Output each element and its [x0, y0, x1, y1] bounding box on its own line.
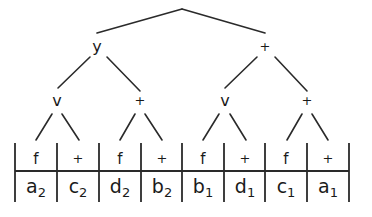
- cell-6-bottom: c1: [277, 175, 296, 200]
- edge-y-plus: [107, 57, 140, 91]
- cell-0-top: f: [33, 150, 39, 168]
- cell-top-labels: f + f + f + f +: [33, 150, 333, 168]
- edge-p1-plus: [145, 114, 162, 140]
- level2-nodes: v + v +: [52, 91, 312, 110]
- cell-3-bottom: b2: [152, 175, 172, 200]
- node-plus-right: +: [260, 39, 271, 54]
- cell-7-bottom: a1: [318, 175, 338, 200]
- edge-v1-plus: [62, 114, 79, 140]
- edge-p2-plus: [312, 114, 328, 140]
- edge-y-v: [58, 57, 90, 88]
- edge-plus-plus: [275, 57, 307, 91]
- cell-0-bottom: a2: [26, 175, 46, 200]
- node-plus-2: +: [302, 93, 313, 108]
- cell-1-top: +: [73, 151, 84, 166]
- cell-5-bottom: d1: [235, 175, 255, 200]
- edge-v2-plus: [230, 114, 246, 140]
- level1-edges: [58, 57, 307, 91]
- node-v-1: v: [52, 91, 61, 110]
- cell-6-top: f: [283, 150, 289, 168]
- cell-1-bottom: c2: [69, 175, 88, 200]
- cell-4-bottom: b1: [193, 175, 213, 200]
- edge-plus-v: [225, 57, 257, 88]
- cell-4-top: f: [200, 150, 206, 168]
- cell-2-top: f: [117, 150, 123, 168]
- edge-p2-f: [287, 114, 302, 140]
- edge-root-right: [182, 9, 265, 33]
- edge-p1-f: [120, 114, 135, 140]
- cell-grid: [15, 143, 349, 202]
- level2-edges: [36, 114, 328, 140]
- node-plus-1: +: [135, 93, 146, 108]
- root-edges: [97, 9, 265, 33]
- node-y: y: [92, 37, 101, 56]
- cell-5-top: +: [240, 151, 251, 166]
- tree-diagram: y + v + v + f: [0, 0, 372, 217]
- cell-3-top: +: [157, 151, 168, 166]
- cell-2-bottom: d2: [110, 175, 130, 200]
- node-v-2: v: [220, 91, 229, 110]
- cell-7-top: +: [323, 151, 334, 166]
- edge-v2-f: [203, 114, 219, 140]
- edge-v1-f: [36, 114, 52, 140]
- level1-nodes: y +: [92, 37, 270, 56]
- edge-root-left: [97, 9, 182, 33]
